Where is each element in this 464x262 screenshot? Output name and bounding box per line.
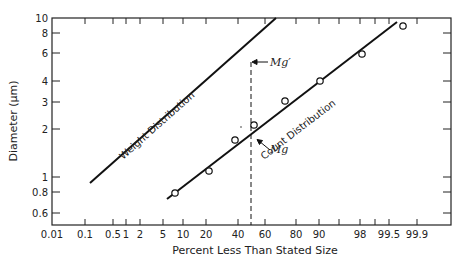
- x-tick-label: 20: [200, 229, 213, 240]
- x-tick-label: 40: [232, 229, 245, 240]
- y-axis-title: Diameter (μm): [7, 80, 20, 161]
- y-tick-label: 2: [42, 124, 48, 135]
- count-distribution-line: [167, 22, 397, 199]
- x-tick-label: 1: [123, 229, 129, 240]
- x-tick-label: 2: [137, 229, 143, 240]
- data-point: [232, 137, 238, 143]
- y-tick-label: 1: [42, 172, 48, 183]
- weight-distribution-label: Weight Distribution: [117, 89, 196, 161]
- y-tick-label: 6: [42, 48, 48, 59]
- count-data-points: [172, 23, 406, 196]
- y-tick-label: 4: [42, 76, 48, 87]
- mg-prime-label: Mg′: [269, 56, 291, 69]
- x-tick-label: 0.5: [105, 229, 121, 240]
- mg-label: Mg: [269, 143, 288, 156]
- data-point: [206, 168, 212, 174]
- x-tick-label: 80: [290, 229, 303, 240]
- y-axis-ticks: 108643210.80.6: [32, 13, 451, 219]
- probability-log-chart: 0.010.10.51251020406080909899.599.9 1086…: [0, 0, 464, 262]
- x-tick-label: 99.9: [406, 229, 428, 240]
- data-point: [251, 122, 257, 128]
- x-tick-label: 0.1: [77, 229, 93, 240]
- data-point: [282, 98, 288, 104]
- x-tick-label: 98: [354, 229, 367, 240]
- data-point: [359, 51, 365, 57]
- y-tick-label: 8: [42, 28, 48, 39]
- x-tick-label: 60: [259, 229, 272, 240]
- x-tick-label: 10: [177, 229, 190, 240]
- y-tick-label: 3: [42, 97, 48, 108]
- y-tick-label: 0.8: [32, 187, 48, 198]
- data-point: [317, 78, 323, 84]
- y-tick-label: 0.6: [32, 208, 48, 219]
- x-tick-label: 90: [313, 229, 326, 240]
- data-point: [172, 190, 178, 196]
- data-point: [400, 23, 406, 29]
- x-axis-ticks: 0.010.10.51251020406080909899.599.9: [41, 18, 428, 240]
- x-axis-title: Percent Less Than Stated Size: [172, 244, 338, 257]
- y-tick-label: 10: [35, 13, 48, 24]
- x-tick-label: 5: [160, 229, 166, 240]
- x-tick-label: 99.5: [378, 229, 400, 240]
- mg-prime-arrow: [252, 60, 268, 65]
- stray-dot: [240, 126, 242, 128]
- x-tick-label: 0.01: [41, 229, 63, 240]
